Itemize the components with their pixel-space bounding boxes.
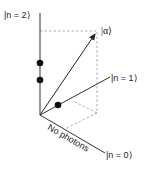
dot-n2-axis-lower [37,77,44,84]
label-alpha: |α⟩ [101,25,112,36]
label-n2: |n = 2⟩ [4,10,31,20]
alpha-vector-arrow [40,34,95,115]
dashed-to-n0-axis [65,113,97,129]
dashed-projection-lines [40,31,97,129]
dashed-to-n1-axis [73,101,97,113]
dot-n1-axis [55,102,62,109]
label-n0: |n = 0⟩ [106,150,133,160]
dot-n2-axis-upper [37,60,44,67]
label-n1: |n = 1⟩ [111,73,138,83]
fock-space-diagram: |n = 2⟩ |α⟩ |n = 1⟩ |n = 0⟩ No photons [0,0,151,172]
axis-n1 [40,77,110,115]
